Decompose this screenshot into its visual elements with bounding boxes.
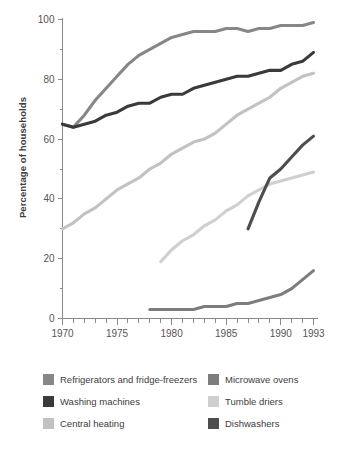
y-tick-label: 80 xyxy=(43,74,55,85)
legend-item-refrigerators[interactable]: Refrigerators and fridge-freezers xyxy=(43,368,197,390)
legend-swatch-central-heating-icon xyxy=(43,418,54,429)
series-lines xyxy=(63,22,314,309)
legend-label-washing-machines: Washing machines xyxy=(60,396,140,407)
legend-swatch-tumble-driers-icon xyxy=(208,396,219,407)
series-line-tumble-driers xyxy=(161,172,314,262)
y-tick-label: 40 xyxy=(43,193,55,204)
legend-label-microwave-ovens: Microwave ovens xyxy=(225,374,298,385)
legend-swatch-dishwashers-icon xyxy=(208,418,219,429)
x-tick-label: 1980 xyxy=(161,328,184,339)
y-tick-label: 0 xyxy=(49,313,55,324)
legend-column-left: Refrigerators and fridge-freezers Washin… xyxy=(43,368,197,434)
line-chart-figure: 020406080100 197019751980198519901993 Pe… xyxy=(0,0,341,451)
series-line-microwave-ovens xyxy=(150,271,314,310)
y-axis-title: Percentage of households xyxy=(17,73,28,243)
legend-swatch-refrigerators-icon xyxy=(43,374,54,385)
series-line-washing-machines xyxy=(63,52,314,127)
legend-item-washing-machines[interactable]: Washing machines xyxy=(43,390,197,412)
x-tick-label: 1993 xyxy=(302,328,325,339)
legend-item-dishwashers[interactable]: Dishwashers xyxy=(208,412,298,434)
x-tick-label: 1975 xyxy=(106,328,129,339)
chart-legend: Refrigerators and fridge-freezers Washin… xyxy=(0,368,341,438)
y-axis-ticks: 020406080100 xyxy=(38,14,63,324)
legend-label-central-heating: Central heating xyxy=(60,418,124,429)
legend-label-tumble-driers: Tumble driers xyxy=(225,396,283,407)
x-tick-label: 1970 xyxy=(51,328,74,339)
y-tick-label: 60 xyxy=(43,134,55,145)
chart-plot-area: 020406080100 197019751980198519901993 xyxy=(0,0,341,365)
x-tick-label: 1985 xyxy=(215,328,238,339)
legend-swatch-washing-machines-icon xyxy=(43,396,54,407)
legend-swatch-microwave-ovens-icon xyxy=(208,374,219,385)
legend-item-microwave-ovens[interactable]: Microwave ovens xyxy=(208,368,298,390)
y-tick-label: 100 xyxy=(38,14,55,25)
x-axis-ticks: 197019751980198519901993 xyxy=(51,319,325,339)
legend-label-refrigerators: Refrigerators and fridge-freezers xyxy=(60,374,197,385)
legend-column-right: Microwave ovens Tumble driers Dishwasher… xyxy=(208,368,298,434)
series-line-refrigerators-and-fridge-freezers xyxy=(63,22,314,127)
legend-label-dishwashers: Dishwashers xyxy=(225,418,279,429)
y-tick-label: 20 xyxy=(43,253,55,264)
legend-item-central-heating[interactable]: Central heating xyxy=(43,412,197,434)
legend-item-tumble-driers[interactable]: Tumble driers xyxy=(208,390,298,412)
x-tick-label: 1990 xyxy=(270,328,293,339)
